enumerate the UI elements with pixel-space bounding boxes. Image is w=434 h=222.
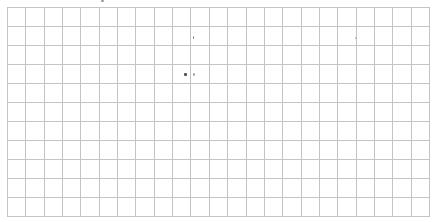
grid-vertical-line [80, 7, 81, 217]
grid-vertical-line [135, 7, 136, 217]
mark-dot [193, 36, 194, 39]
grid-vertical-line [282, 7, 283, 217]
mark-dot [101, 0, 104, 2]
grid-vertical-line [62, 7, 63, 217]
grid-horizontal-line [7, 7, 430, 8]
grid-vertical-line [429, 7, 430, 217]
mark-dot [193, 73, 195, 76]
grid-vertical-line [319, 7, 320, 217]
grid-horizontal-line [7, 178, 430, 179]
grid-vertical-line [374, 7, 375, 217]
grid-vertical-line [154, 7, 155, 217]
grid-horizontal-line [7, 102, 430, 103]
grid-horizontal-line [7, 121, 430, 122]
grid-vertical-line [172, 7, 173, 217]
grid-vertical-line [99, 7, 100, 217]
grid-vertical-line [337, 7, 338, 217]
grid-vertical-line [301, 7, 302, 217]
grid-horizontal-line [7, 140, 430, 141]
grid-horizontal-line [7, 216, 430, 217]
grid-horizontal-line [7, 159, 430, 160]
mark-dot [355, 37, 357, 39]
grid-canvas [0, 0, 434, 222]
grid-vertical-line [44, 7, 45, 217]
grid-vertical-line [209, 7, 210, 217]
grid-horizontal-line [7, 83, 430, 84]
grid-vertical-line [246, 7, 247, 217]
grid-horizontal-line [7, 197, 430, 198]
grid-vertical-line [411, 7, 412, 217]
grid-horizontal-line [7, 26, 430, 27]
grid-vertical-line [7, 7, 8, 217]
grid-vertical-line [227, 7, 228, 217]
grid-horizontal-line [7, 45, 430, 46]
mark-dot [184, 73, 187, 76]
grid-vertical-line [25, 7, 26, 217]
grid-vertical-line [117, 7, 118, 217]
grid-vertical-line [392, 7, 393, 217]
grid-vertical-line [264, 7, 265, 217]
grid-vertical-line [190, 7, 191, 217]
grid-horizontal-line [7, 64, 430, 65]
